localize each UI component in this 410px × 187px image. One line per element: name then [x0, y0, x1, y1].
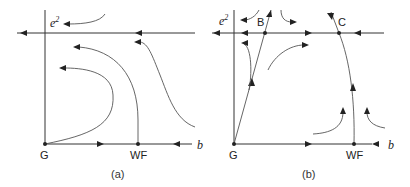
point-g: [43, 142, 47, 146]
panel-a: e2 b G WF (a): [17, 10, 203, 180]
trajectory-curve: [244, 44, 251, 90]
point-label-c: C: [338, 16, 346, 28]
y-axis-label: e2: [50, 15, 59, 30]
phase-diagrams: e2 b G WF (a): [0, 0, 410, 187]
point-wf: [136, 142, 140, 146]
arrow-left-icon: [372, 141, 379, 147]
trajectory-curve: [367, 112, 385, 128]
point-label-b: B: [257, 16, 264, 28]
arrow-left-icon: [354, 30, 361, 36]
caption-a: (a): [111, 168, 124, 180]
arrow-left-icon: [241, 30, 248, 36]
point-c: [337, 31, 341, 35]
point-wf: [352, 142, 356, 146]
trajectory-curve: [68, 14, 105, 24]
trajectory-curve: [313, 112, 343, 134]
point-g: [232, 142, 236, 146]
separatrix-wf-c: [331, 12, 354, 144]
arrow-left-icon: [213, 30, 220, 36]
arrow-right-icon: [305, 141, 312, 147]
point-label-wf: WF: [130, 149, 147, 161]
point-label-wf: WF: [346, 149, 363, 161]
arrow-right-icon: [97, 141, 104, 147]
point-label-g: G: [40, 149, 49, 161]
caption-b: (b): [302, 168, 315, 180]
trajectory-curve: [268, 45, 304, 70]
trajectory-curve: [79, 47, 138, 144]
point-b: [263, 31, 267, 35]
arrow-left-icon: [173, 141, 180, 147]
arrow-left-icon: [20, 30, 27, 36]
separatrix-g-b: [234, 10, 271, 144]
y-axis-label: e2: [219, 13, 228, 28]
trajectory-curve: [45, 68, 113, 144]
panel-b: e2 b G WF B C (b): [212, 10, 394, 180]
point-label-g: G: [229, 149, 238, 161]
x-axis-label: b: [388, 138, 394, 152]
arrow-right-icon: [305, 30, 312, 36]
x-axis-label: b: [197, 138, 203, 152]
trajectory-curve: [140, 42, 195, 127]
arrow-left-icon: [135, 30, 142, 36]
